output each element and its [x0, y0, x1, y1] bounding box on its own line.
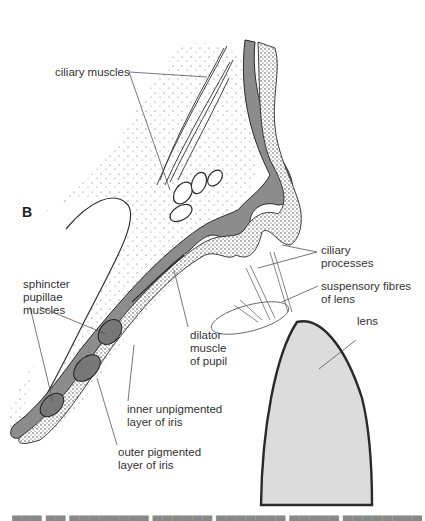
label-suspensory-1: suspensory fibres [321, 280, 411, 292]
label-inner-layer-2: layer of iris [127, 416, 183, 428]
label-lens: lens [357, 315, 378, 327]
label-sphincter-1: sphincter [23, 278, 70, 290]
label-ciliary-processes-1: ciliary [321, 244, 351, 256]
label-outer-layer-2: layer of iris [118, 459, 174, 471]
lens [261, 321, 372, 505]
cropped-caption: ▀▀▀ ▀▀ ▀▀▀▀▀▀▀▀ ▀▀▀▀▀▀ ▀▀▀▀▀▀▀ ▀▀▀▀▀ ▀▀▀… [12, 512, 422, 521]
label-outer-layer-1: outer pigmented [118, 446, 201, 458]
label-suspensory-2: of lens [321, 293, 355, 305]
ciliary-body-iris-diagram: B ciliary muscles ciliary processes susp… [0, 0, 425, 521]
label-sphincter-2: pupillae [23, 291, 63, 303]
label-dilator-1: dilator [190, 329, 221, 341]
label-dilator-3: of pupil [190, 355, 227, 367]
label-inner-layer-1: inner unpigmented [127, 403, 222, 415]
label-ciliary-muscles: ciliary muscles [55, 66, 130, 78]
label-ciliary-processes-2: processes [321, 257, 374, 269]
label-sphincter-3: muscles [23, 304, 65, 316]
label-dilator-2: muscle [190, 342, 226, 354]
panel-label: B [22, 204, 32, 220]
suspensory-fibres [234, 252, 292, 322]
